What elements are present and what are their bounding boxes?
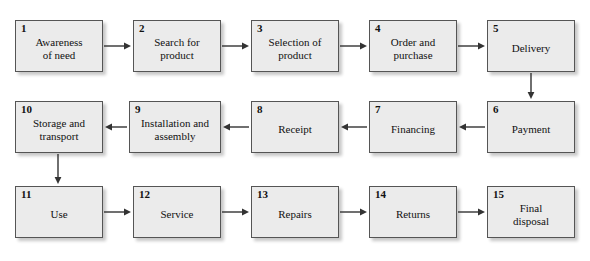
process-box-number: 6	[493, 104, 499, 115]
process-box-label: Installation and assembly	[138, 117, 212, 144]
process-box-number: 7	[375, 104, 381, 115]
process-box-label: Selection of product	[266, 36, 325, 63]
process-box-number: 13	[257, 189, 268, 200]
flowchart-diagram: 1Awareness of need2Search for product3Se…	[0, 0, 590, 261]
process-box-label: Search for product	[151, 36, 203, 63]
process-box-2[interactable]: 2Search for product	[133, 20, 221, 72]
process-box-9[interactable]: 9Installation and assembly	[129, 101, 221, 153]
arrow-6-to-7	[453, 121, 491, 133]
process-box-14[interactable]: 14Returns	[369, 186, 457, 238]
arrow-13-to-14	[334, 206, 373, 218]
process-box-3[interactable]: 3Selection of product	[251, 20, 339, 72]
process-box-label: Storage and transport	[30, 117, 88, 144]
arrow-3-to-4	[334, 40, 373, 52]
process-box-12[interactable]: 12Service	[133, 186, 221, 238]
process-box-1[interactable]: 1Awareness of need	[15, 20, 103, 72]
process-box-number: 9	[135, 104, 141, 115]
arrow-10-to-11	[52, 148, 64, 190]
arrow-8-to-9	[217, 121, 255, 133]
process-box-15[interactable]: 15Final disposal	[487, 186, 575, 238]
arrow-1-to-2	[98, 40, 137, 52]
process-box-label: Awareness of need	[32, 36, 85, 63]
process-box-6[interactable]: 6Payment	[487, 101, 575, 153]
arrow-11-to-12	[98, 206, 137, 218]
arrow-14-to-15	[452, 206, 491, 218]
process-box-number: 10	[21, 104, 32, 115]
process-box-7[interactable]: 7Financing	[369, 101, 457, 153]
arrow-7-to-8	[335, 121, 373, 133]
process-box-label: Repairs	[275, 208, 315, 221]
process-box-number: 14	[375, 189, 386, 200]
arrow-2-to-3	[216, 40, 255, 52]
process-box-label: Returns	[393, 208, 433, 221]
process-box-label: Order and purchase	[388, 36, 438, 63]
process-box-label: Final disposal	[510, 202, 552, 229]
process-box-number: 4	[375, 23, 381, 34]
process-box-number: 8	[257, 104, 263, 115]
process-box-8[interactable]: 8Receipt	[251, 101, 339, 153]
process-box-number: 15	[493, 189, 504, 200]
process-box-number: 11	[21, 189, 31, 200]
process-box-number: 2	[139, 23, 145, 34]
process-box-label: Service	[158, 208, 197, 221]
process-box-number: 1	[21, 23, 27, 34]
process-box-number: 12	[139, 189, 150, 200]
arrow-12-to-13	[216, 206, 255, 218]
process-box-label: Payment	[509, 123, 554, 136]
process-box-13[interactable]: 13Repairs	[251, 186, 339, 238]
arrow-4-to-5	[452, 40, 491, 52]
process-box-number: 3	[257, 23, 263, 34]
arrow-9-to-10	[99, 121, 133, 133]
process-box-label: Use	[47, 208, 70, 221]
process-box-number: 5	[493, 23, 499, 34]
process-box-11[interactable]: 11Use	[15, 186, 103, 238]
process-box-4[interactable]: 4Order and purchase	[369, 20, 457, 72]
process-box-label: Financing	[388, 123, 438, 136]
process-box-5[interactable]: 5Delivery	[487, 20, 575, 72]
process-box-label: Delivery	[509, 42, 553, 55]
arrow-5-to-6	[525, 67, 537, 105]
process-box-10[interactable]: 10Storage and transport	[15, 101, 103, 153]
process-box-label: Receipt	[275, 123, 315, 136]
